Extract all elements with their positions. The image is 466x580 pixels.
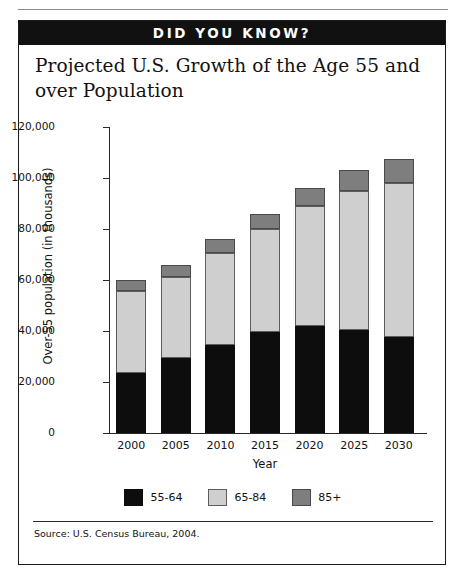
x-axis-line — [109, 433, 427, 434]
bar-segment-65-84 — [339, 191, 369, 330]
bar-segment-85plus — [161, 265, 191, 278]
bar-segment-85plus — [339, 170, 369, 190]
y-axis-label: Over-55 population (in thousands) — [41, 151, 55, 381]
bar-stack — [250, 214, 280, 433]
source-note: Source: U.S. Census Bureau, 2004. — [34, 528, 200, 539]
plot-bars — [109, 127, 421, 433]
bar-segment-65-84 — [116, 291, 146, 373]
legend-swatch — [292, 489, 311, 506]
legend-label: 85+ — [318, 491, 341, 504]
bar-segment-65-84 — [384, 183, 414, 337]
bar-segment-55-64 — [205, 345, 235, 433]
legend-item: 55-64 — [124, 489, 182, 506]
bar-segment-55-64 — [161, 358, 191, 433]
bar-segment-65-84 — [295, 206, 325, 326]
legend-swatch — [124, 489, 143, 506]
chart-area: Over-55 population (in thousands) 020,00… — [19, 109, 447, 481]
bar-stack — [116, 280, 146, 433]
callout-banner: DID YOU KNOW? — [19, 21, 445, 45]
did-you-know-callout: DID YOU KNOW? Projected U.S. Growth of t… — [18, 20, 446, 565]
bar-segment-65-84 — [161, 277, 191, 357]
bar-segment-85plus — [384, 159, 414, 183]
bar-segment-85plus — [116, 280, 146, 291]
bar-segment-85plus — [205, 239, 235, 253]
legend-swatch — [208, 489, 227, 506]
y-tick-label: 80,000 — [0, 222, 55, 234]
y-tick-label: 100,000 — [0, 171, 55, 183]
y-tick-label: 60,000 — [0, 273, 55, 285]
y-tick-label: 40,000 — [0, 324, 55, 336]
legend-item: 85+ — [292, 489, 341, 506]
bar-stack — [161, 265, 191, 433]
y-tick-label: 20,000 — [0, 375, 55, 387]
chart-title: Projected U.S. Growth of the Age 55 and … — [35, 53, 431, 103]
bar-segment-55-64 — [295, 326, 325, 433]
legend-label: 65-84 — [234, 491, 266, 504]
bar-segment-55-64 — [339, 330, 369, 433]
bar-segment-55-64 — [116, 373, 146, 433]
bar-segment-85plus — [295, 188, 325, 206]
bar-stack — [205, 239, 235, 433]
callout-banner-label: DID YOU KNOW? — [19, 21, 445, 45]
y-tick-mark — [103, 433, 109, 434]
x-axis-label: Year — [109, 457, 421, 471]
bar-stack — [295, 188, 325, 433]
bar-segment-65-84 — [250, 229, 280, 332]
bar-stack — [339, 170, 369, 433]
legend-item: 65-84 — [208, 489, 266, 506]
legend-label: 55-64 — [150, 491, 182, 504]
source-divider — [33, 521, 433, 522]
bar-segment-85plus — [250, 214, 280, 229]
bar-segment-55-64 — [384, 337, 414, 433]
bar-segment-65-84 — [205, 253, 235, 345]
chart-legend: 55-6465-8485+ — [19, 489, 447, 506]
page-top-rule — [18, 9, 448, 10]
y-tick-label: 120,000 — [0, 120, 55, 132]
bar-segment-55-64 — [250, 332, 280, 433]
y-tick-label: 0 — [0, 426, 55, 438]
x-tick-label: 2030 — [369, 439, 429, 452]
figure-root: DID YOU KNOW? Projected U.S. Growth of t… — [0, 0, 466, 580]
bar-stack — [384, 159, 414, 433]
